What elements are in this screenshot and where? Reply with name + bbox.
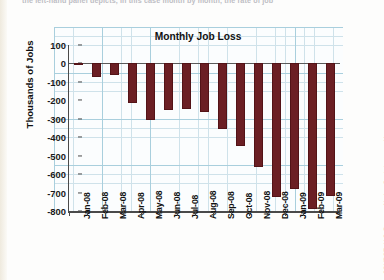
page-edge-gradient <box>0 0 7 280</box>
y-tick-label: -500 <box>32 150 66 161</box>
bar <box>200 63 209 112</box>
y-tick-label: -200 <box>32 95 66 106</box>
y-tick-label: -800 <box>32 206 66 217</box>
y-axis-ticks: 1000-100-200-300-400-500-600-700-800 <box>26 27 66 236</box>
y-tick-label: -700 <box>32 187 66 198</box>
x-tick-mark <box>123 212 124 216</box>
x-tick-mark <box>69 212 70 216</box>
y-tick-label: -100 <box>32 76 66 87</box>
x-tick-mark <box>303 212 304 216</box>
bar-series <box>69 45 339 211</box>
y-tick-label: -400 <box>32 132 66 143</box>
bar <box>326 63 335 196</box>
bar <box>110 63 119 74</box>
x-tick-mark <box>213 212 214 216</box>
y-tick-label: -600 <box>32 169 66 180</box>
y-tick-label: 0 <box>32 58 66 69</box>
bar <box>272 63 281 197</box>
chart-figure: Monthly Job Loss Thousands of Jobs 1000-… <box>13 27 343 236</box>
x-tick-mark <box>267 212 268 216</box>
bar <box>182 63 191 108</box>
x-tick-mark <box>321 212 322 216</box>
x-tick-mark <box>285 212 286 216</box>
x-tick-mark <box>87 212 88 216</box>
bar <box>74 63 83 65</box>
x-tick-mark <box>249 212 250 216</box>
bar <box>128 63 137 103</box>
bar <box>218 63 227 128</box>
body-text-excerpt: the left-hand panel depicts, in this cas… <box>22 0 362 5</box>
x-tick-mark <box>159 212 160 216</box>
bar <box>290 63 299 188</box>
bar <box>146 63 155 119</box>
x-tick-mark <box>141 212 142 216</box>
bar <box>164 63 173 110</box>
x-tick-mark <box>339 212 340 216</box>
bar <box>236 63 245 146</box>
x-tick-mark <box>177 212 178 216</box>
y-tick-label: -300 <box>32 113 66 124</box>
x-tick-mark <box>105 212 106 216</box>
plot-area <box>69 45 339 211</box>
bar <box>254 63 263 166</box>
x-tick-mark <box>231 212 232 216</box>
x-tick-mark <box>195 212 196 216</box>
page-canvas: the left-hand panel depicts, in this cas… <box>0 0 384 280</box>
bar <box>308 63 317 209</box>
y-tick-label: 100 <box>32 40 66 51</box>
bar <box>92 63 101 77</box>
chart-title: Monthly Job Loss <box>123 31 273 42</box>
